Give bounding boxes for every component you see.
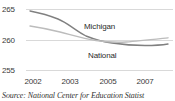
x-axis-tick-2003: 2003 [57, 77, 83, 86]
chart-figure: 265 260 255 Michigan National 2002 2003 … [0, 0, 175, 101]
plot-area: 265 260 255 Michigan National 2002 2003 … [0, 0, 175, 91]
x-axis-tick-2005: 2005 [95, 77, 121, 86]
series-label-michigan: Michigan [84, 22, 115, 31]
series-label-national: National [88, 51, 117, 60]
source-caption: Source: National Center for Education St… [2, 91, 144, 101]
x-axis-tick-2002: 2002 [20, 77, 46, 86]
x-axis-tick-2007: 2007 [132, 77, 158, 86]
